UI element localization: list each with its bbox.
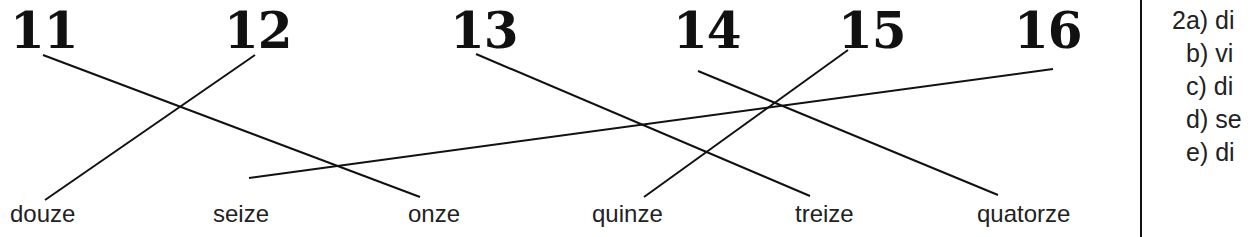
answer-b: b) vi	[1172, 37, 1242, 70]
match-line-11-onze	[43, 55, 420, 197]
word-onze: onze	[408, 200, 460, 228]
answer-2a: 2a) di	[1172, 4, 1242, 37]
answer-e: e) di	[1172, 136, 1242, 169]
word-quinze: quinze	[592, 200, 663, 228]
match-line-12-douze	[45, 55, 255, 200]
answer-list: 2a) di b) vi c) di d) se e) di	[1172, 4, 1242, 169]
word-seize: seize	[213, 200, 269, 228]
word-treize: treize	[795, 200, 854, 228]
match-line-16-seize	[249, 69, 1053, 178]
matching-lines	[0, 0, 1140, 237]
match-line-14-quatorze	[698, 71, 998, 195]
column-divider	[1140, 0, 1142, 237]
answer-d: d) se	[1172, 103, 1242, 136]
word-quatorze: quatorze	[977, 200, 1070, 228]
word-douze: douze	[10, 200, 75, 228]
answer-c: c) di	[1172, 70, 1242, 103]
match-line-15-quinze	[644, 50, 848, 197]
